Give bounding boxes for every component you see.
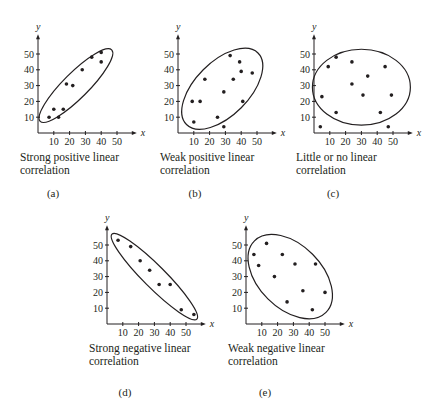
data-point [198, 100, 202, 104]
data-point [314, 262, 318, 266]
y-tick-label: 30 [24, 80, 34, 91]
y-tick-label: 40 [232, 255, 242, 266]
y-tick-label: 30 [164, 80, 174, 91]
y-tick-label: 20 [300, 96, 310, 107]
data-point [238, 60, 242, 64]
data-point [157, 283, 161, 287]
data-point [47, 115, 51, 119]
x-tick-label: 50 [252, 136, 262, 147]
y-tick-label: 10 [232, 303, 242, 314]
data-point [366, 74, 370, 78]
scatter-panel-b: xy10203040501020304050 [164, 21, 286, 147]
data-point [192, 120, 196, 124]
x-tick-label: 20 [273, 327, 283, 338]
data-point [129, 245, 133, 249]
y-tick-label: 10 [300, 112, 310, 123]
panel-label-c: (c) [318, 187, 348, 199]
data-point [311, 308, 315, 312]
data-point [57, 115, 61, 119]
y-tick-label: 40 [300, 64, 310, 75]
data-point [383, 65, 387, 69]
x-tick-label: 10 [118, 327, 128, 338]
caption-c: Little or no linearcorrelation [296, 151, 377, 177]
x-tick-label: 30 [80, 136, 90, 147]
grouping-ellipse [312, 49, 410, 125]
caption-e: Weak negative linearcorrelation [228, 342, 325, 368]
x-tick-label: 40 [96, 136, 106, 147]
data-point [99, 51, 103, 55]
x-tick-label: 40 [165, 327, 175, 338]
y-axis-arrow-icon [105, 225, 109, 230]
y-axis-label: y [311, 21, 317, 32]
x-tick-label: 30 [288, 327, 298, 338]
y-tick-label: 40 [93, 255, 103, 266]
data-point [350, 60, 354, 64]
data-point [80, 68, 84, 72]
y-tick-label: 50 [93, 240, 103, 251]
data-point [203, 77, 207, 81]
y-axis-label: y [175, 21, 181, 32]
data-point [65, 82, 69, 86]
data-point [386, 125, 390, 129]
y-axis-label: y [104, 212, 110, 223]
panel-label-e: (e) [250, 386, 280, 398]
caption-d: Strong negative linearcorrelation [89, 342, 191, 368]
grouping-ellipse [232, 219, 348, 335]
x-tick-label: 40 [236, 136, 246, 147]
y-tick-label: 20 [164, 96, 174, 107]
scatter-panel-c: xy10203040501020304050 [300, 21, 422, 147]
panel-label-a: (a) [38, 187, 68, 199]
x-tick-label: 40 [304, 327, 314, 338]
data-point [265, 242, 269, 246]
x-tick-label: 20 [341, 136, 351, 147]
x-tick-label: 30 [356, 136, 366, 147]
x-axis-arrow-icon [272, 131, 277, 135]
x-tick-label: 50 [181, 327, 191, 338]
x-tick-label: 20 [205, 136, 215, 147]
data-point [257, 264, 261, 268]
y-axis-label: y [35, 21, 41, 32]
x-tick-label: 10 [189, 136, 199, 147]
caption-line: correlation [89, 355, 191, 368]
y-axis-arrow-icon [312, 34, 316, 39]
data-point [273, 275, 277, 279]
scatter-panel-e: xy10203040501020304050 [232, 212, 354, 338]
data-point [179, 308, 183, 312]
y-axis-arrow-icon [244, 225, 248, 230]
data-point [99, 60, 103, 64]
grouping-ellipse [31, 41, 120, 130]
caption-line: Strong positive linear [20, 151, 119, 164]
y-tick-label: 30 [300, 80, 310, 91]
caption-line: Strong negative linear [89, 342, 191, 355]
y-tick-label: 10 [24, 112, 34, 123]
y-tick-label: 30 [93, 271, 103, 282]
data-point [326, 65, 330, 69]
data-point [334, 55, 338, 59]
caption-b: Weak positive linearcorrelation [160, 151, 254, 177]
caption-line: correlation [296, 164, 377, 177]
data-point [138, 259, 142, 263]
caption-line: Little or no linear [296, 151, 377, 164]
y-tick-label: 40 [24, 64, 34, 75]
data-point [323, 291, 327, 295]
x-axis-label: x [280, 127, 286, 138]
data-point [379, 111, 383, 115]
x-tick-label: 30 [220, 136, 230, 147]
data-point [52, 108, 56, 112]
data-point [301, 289, 305, 293]
y-tick-label: 50 [232, 240, 242, 251]
data-point [222, 90, 226, 94]
data-point [281, 253, 285, 257]
data-point [190, 100, 194, 104]
y-tick-label: 20 [24, 96, 34, 107]
x-axis-arrow-icon [132, 131, 137, 135]
x-tick-label: 20 [65, 136, 75, 147]
scatter-panel-d: xy10203040501020304050 [93, 212, 215, 338]
data-point [285, 300, 289, 304]
x-axis-label: x [140, 127, 146, 138]
data-point [390, 93, 394, 97]
panel-label-b: (b) [180, 187, 210, 199]
caption-line: correlation [20, 164, 119, 177]
y-tick-label: 10 [93, 303, 103, 314]
x-tick-label: 50 [112, 136, 122, 147]
